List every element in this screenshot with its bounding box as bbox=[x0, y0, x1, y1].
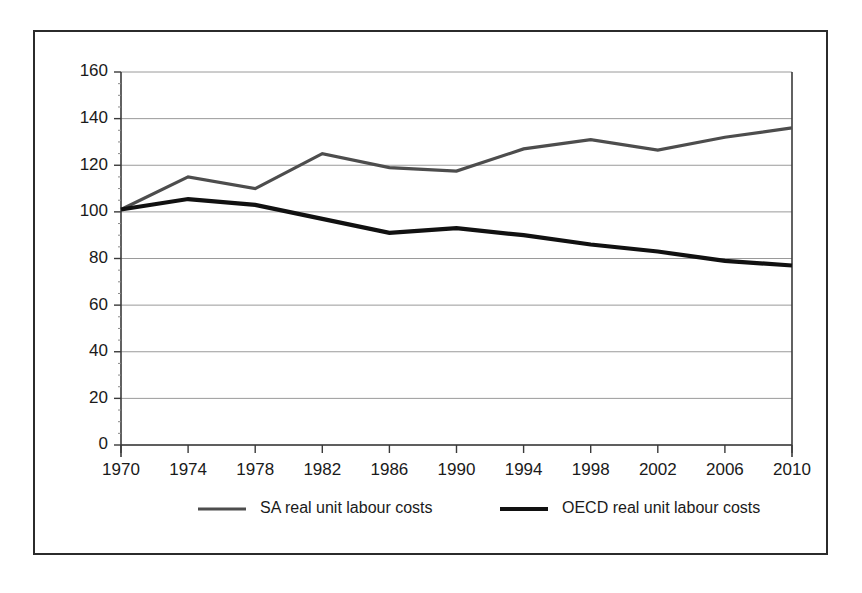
x-tick-label: 1974 bbox=[169, 460, 207, 479]
x-tick-label: 1978 bbox=[236, 460, 274, 479]
data-series bbox=[121, 128, 792, 266]
x-tick-label: 1982 bbox=[303, 460, 341, 479]
y-axis bbox=[114, 72, 121, 445]
series-line-oecd bbox=[121, 199, 792, 265]
y-tick-label: 140 bbox=[80, 108, 108, 127]
gridlines bbox=[121, 72, 792, 445]
x-tick-label: 2006 bbox=[706, 460, 744, 479]
x-tick-label: 2010 bbox=[773, 460, 811, 479]
chart-plot-area: 020406080100120140160 197019741978198219… bbox=[35, 32, 826, 553]
chart-legend: SA real unit labour costsOECD real unit … bbox=[198, 499, 760, 516]
x-tick-label: 1986 bbox=[370, 460, 408, 479]
y-tick-label: 160 bbox=[80, 61, 108, 80]
x-tick-label: 2002 bbox=[639, 460, 677, 479]
legend-label: OECD real unit labour costs bbox=[562, 499, 760, 516]
y-tick-label: 20 bbox=[89, 388, 108, 407]
legend-label: SA real unit labour costs bbox=[260, 499, 433, 516]
y-tick-label: 60 bbox=[89, 295, 108, 314]
x-tick-label: 1994 bbox=[505, 460, 543, 479]
y-tick-label: 100 bbox=[80, 201, 108, 220]
series-line-sa bbox=[121, 128, 792, 210]
y-tick-labels: 020406080100120140160 bbox=[80, 61, 108, 453]
x-tick-label: 1990 bbox=[438, 460, 476, 479]
y-tick-label: 120 bbox=[80, 155, 108, 174]
x-tick-label: 1998 bbox=[572, 460, 610, 479]
line-chart: 020406080100120140160 197019741978198219… bbox=[35, 32, 826, 553]
y-tick-label: 40 bbox=[89, 341, 108, 360]
y-tick-label: 0 bbox=[99, 434, 108, 453]
y-tick-label: 80 bbox=[89, 248, 108, 267]
x-tick-labels: 1970197419781982198619901994199820022006… bbox=[102, 460, 811, 479]
figure-frame: 020406080100120140160 197019741978198219… bbox=[33, 30, 828, 555]
x-axis bbox=[121, 72, 792, 457]
x-tick-label: 1970 bbox=[102, 460, 140, 479]
